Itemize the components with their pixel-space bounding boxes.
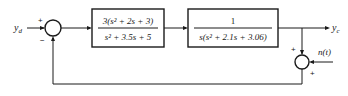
block-2-numerator: 1 xyxy=(231,16,236,26)
output-arrowhead xyxy=(325,26,330,30)
sj1-minus-sign: − xyxy=(40,36,45,45)
sj2-top-plus-sign: + xyxy=(291,45,296,54)
input-arrowhead xyxy=(40,26,45,30)
summing-junction-1 xyxy=(45,20,61,36)
sj2-top-arrowhead xyxy=(300,50,304,55)
block-1-numerator: 3(s² + 2s + 3) xyxy=(102,16,153,26)
block-2-denominator: s(s² + 2.1s + 3.06) xyxy=(199,32,266,42)
sj1-feedback-arrowhead xyxy=(51,36,55,41)
sj1-plus-sign: + xyxy=(38,16,43,25)
sj2-right-plus-sign: + xyxy=(310,69,315,78)
output-label: yc xyxy=(331,22,340,35)
block-diagram: yd + − 3(s² + 2s + 3) s² + 3.5s + 5 1 s(… xyxy=(0,0,348,96)
summing-junction-2 xyxy=(295,55,309,69)
input-label: yd xyxy=(13,22,22,35)
noise-label: n(t) xyxy=(318,47,331,57)
block1-input-arrowhead xyxy=(87,26,92,30)
block-1-denominator: s² + 3.5s + 5 xyxy=(105,32,152,42)
noise-arrowhead xyxy=(309,60,314,64)
block2-input-arrowhead xyxy=(183,26,188,30)
